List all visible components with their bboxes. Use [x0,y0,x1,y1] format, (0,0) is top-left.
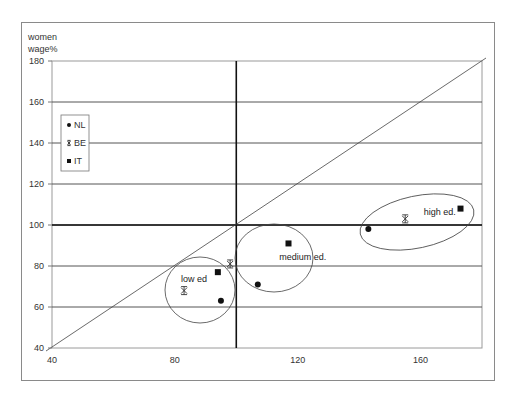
y-tick-label: 180 [29,56,44,66]
scatter-chart: 4060801001201401601804080120160 low edme… [0,0,517,418]
square-marker-icon [458,206,464,212]
group-annotation: medium ed. [279,252,326,262]
legend: NLBEIT [61,115,89,171]
star-marker-icon [227,260,233,268]
y-tick-label: 80 [34,261,44,271]
square-marker-icon [215,269,221,275]
y-tick-label: 100 [29,220,44,230]
x-tick-label: 120 [290,355,305,365]
legend-label: BE [74,138,86,148]
diamond-marker-icon [255,281,261,287]
star-marker-icon [402,215,408,223]
legend-label: IT [74,156,83,166]
legend-label: NL [74,120,86,130]
y-tick-label: 160 [29,97,44,107]
y-tick-label: 120 [29,179,44,189]
diamond-marker-icon [218,298,224,304]
x-tick-label: 40 [47,355,57,365]
square-marker-icon [286,240,292,246]
annotations: low edmedium ed.high ed. [181,207,456,285]
group-ellipse [355,185,479,260]
group-annotation: high ed. [424,207,456,217]
x-tick-label: 160 [413,355,428,365]
star-marker-icon [181,287,187,295]
group-annotation: low ed [181,274,207,284]
square-marker-icon [67,159,71,163]
diamond-marker-icon [365,226,371,232]
group-ellipse [165,257,235,323]
y-tick-label: 140 [29,138,44,148]
y-axis-label-line2: wage% [27,44,58,54]
y-axis-label-line1: women [27,32,57,42]
y-tick-label: 60 [34,302,44,312]
x-tick-label: 80 [170,355,180,365]
y-tick-label: 40 [34,343,44,353]
diamond-marker-icon [67,123,71,127]
